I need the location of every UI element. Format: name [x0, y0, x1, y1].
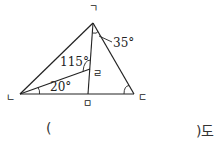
- angle-arc-C: [124, 86, 129, 95]
- angle-label-115: 115°: [60, 55, 89, 69]
- label-vertex-R: ㄹ: [93, 68, 102, 79]
- label-vertex-C: ㄷ: [138, 92, 147, 103]
- answer-open-paren: (: [46, 120, 51, 136]
- angle-arc-A: [92, 32, 98, 34]
- label-vertex-M: ㅁ: [83, 98, 92, 109]
- side-AC: [93, 23, 134, 94]
- label-vertex-B: ㄴ: [6, 92, 15, 103]
- angle-label-35: 35°: [113, 36, 134, 50]
- answer-blank[interactable]: [56, 120, 190, 138]
- answer-close-paren-unit: )도: [196, 120, 214, 140]
- leader-35: [99, 36, 112, 42]
- angle-label-20: 20°: [50, 80, 71, 94]
- angle-arc-B: [38, 88, 40, 94]
- label-vertex-A: ㄱ: [89, 3, 98, 14]
